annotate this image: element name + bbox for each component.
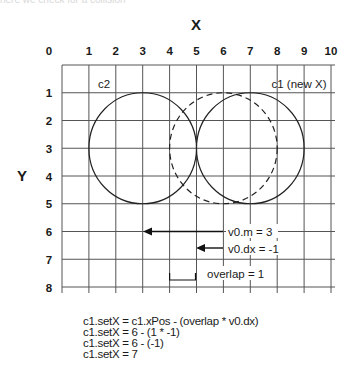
y-tick: 4 (46, 171, 53, 183)
y-tick: 5 (46, 198, 53, 210)
label-c2: c2 (98, 78, 110, 90)
x-tick: 9 (301, 45, 307, 57)
x-tick: 0 (46, 45, 52, 57)
x-tick: 3 (139, 45, 145, 57)
x-tick: 5 (193, 45, 200, 57)
label-v0m: v0.m = 3 (228, 226, 272, 238)
overlap-bracket (170, 273, 196, 280)
code-line: c1.setX = 7 (83, 349, 258, 360)
x-tick-labels: 0 1 2 3 4 5 6 7 8 9 10 (46, 45, 338, 57)
y-tick-labels: 1 2 3 4 5 6 7 8 (46, 87, 53, 294)
vector-v0dx-arrow (196, 244, 223, 252)
y-tick: 7 (46, 254, 52, 266)
label-v0dx: v0.dx = -1 (228, 243, 279, 255)
x-tick: 7 (247, 45, 253, 57)
x-tick: 2 (113, 45, 119, 57)
y-tick: 2 (46, 115, 52, 127)
code-block: c1.setX = c1.xPos - (overlap * v0.dx) c1… (83, 316, 258, 360)
x-axis-title: X (191, 16, 201, 33)
x-tick: 8 (274, 45, 281, 57)
label-c1-new-x: c1 (new X) (272, 78, 327, 90)
x-tick: 1 (86, 45, 93, 57)
x-tick: 10 (325, 45, 338, 57)
y-tick: 1 (46, 87, 53, 99)
y-tick: 6 (46, 226, 52, 238)
x-tick: 4 (166, 45, 173, 57)
y-axis-title: Y (17, 167, 27, 184)
y-tick: 8 (46, 282, 53, 294)
y-tick: 3 (46, 143, 52, 155)
vector-v0m-arrow (143, 228, 223, 236)
label-overlap: overlap = 1 (207, 268, 264, 280)
x-tick: 6 (220, 45, 226, 57)
